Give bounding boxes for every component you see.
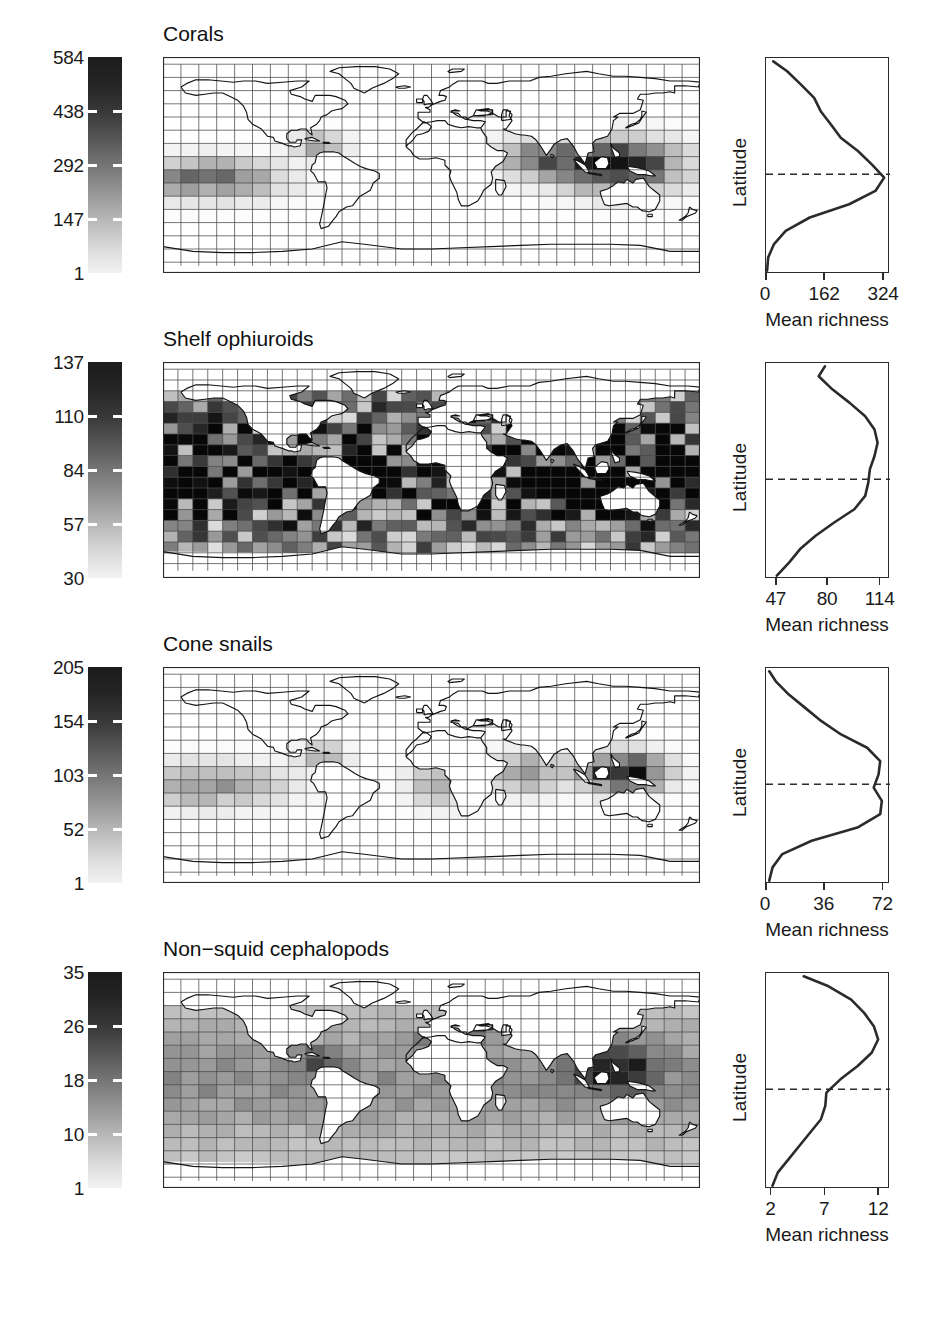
- x-tick-mark: [826, 578, 828, 585]
- x-tick-mark: [879, 578, 881, 585]
- x-tick-label: 162: [798, 283, 850, 305]
- x-axis-ticks: [765, 1188, 889, 1195]
- x-tick-mark: [770, 1188, 772, 1195]
- x-tick-mark: [823, 883, 825, 890]
- x-tick-label: 324: [857, 283, 909, 305]
- latitude-profile-plot-non-squid-cephalopods: Latitude2712Mean richness: [0, 915, 938, 1220]
- x-tick-mark: [765, 273, 767, 280]
- x-tick-labels: 03672: [765, 893, 889, 915]
- x-tick-mark: [775, 578, 777, 585]
- x-tick-label: 0: [739, 893, 791, 915]
- panel-non-squid-cephalopods: 352618101Non−squid cephalopodsLatitude27…: [0, 915, 938, 1220]
- x-axis-ticks: [765, 273, 889, 280]
- plot-frame: [765, 972, 889, 1188]
- latitudinal-gradient-curve: [766, 668, 890, 884]
- latitudinal-gradient-curve: [766, 363, 890, 579]
- x-axis-ticks: [765, 578, 889, 585]
- x-axis-label: Mean richness: [727, 1224, 927, 1246]
- x-tick-mark: [882, 883, 884, 890]
- x-tick-label: 2: [744, 1198, 796, 1220]
- x-tick-label: 114: [854, 588, 906, 610]
- y-axis-label: Latitude: [729, 443, 751, 512]
- panel-cone-snails: 205154103521Cone snailsLatitude03672Mean…: [0, 610, 938, 915]
- x-tick-mark: [765, 883, 767, 890]
- plot-frame: [765, 667, 889, 883]
- latitudinal-gradient-curve: [766, 58, 890, 274]
- latitudinal-gradient-curve: [766, 973, 890, 1189]
- x-tick-mark: [882, 273, 884, 280]
- x-axis-ticks: [765, 883, 889, 890]
- x-tick-label: 36: [798, 893, 850, 915]
- x-tick-mark: [877, 1188, 879, 1195]
- x-tick-mark: [823, 273, 825, 280]
- y-axis-label: Latitude: [729, 138, 751, 207]
- x-tick-label: 72: [856, 893, 908, 915]
- latitude-profile-plot-cone-snails: Latitude03672Mean richness: [0, 610, 938, 915]
- plot-frame: [765, 57, 889, 273]
- y-axis-label: Latitude: [729, 1053, 751, 1122]
- x-tick-label: 0: [739, 283, 791, 305]
- panel-corals: 5844382921471CoralsLatitude0162324Mean r…: [0, 0, 938, 305]
- x-tick-labels: 0162324: [765, 283, 889, 305]
- x-tick-labels: 4780114: [765, 588, 889, 610]
- x-tick-label: 12: [852, 1198, 904, 1220]
- panel-shelf-ophiuroids: 137110845730Shelf ophiuroidsLatitude4780…: [0, 305, 938, 610]
- x-tick-label: 80: [801, 588, 853, 610]
- latitude-profile-plot-shelf-ophiuroids: Latitude4780114Mean richness: [0, 305, 938, 610]
- plot-frame: [765, 362, 889, 578]
- x-tick-mark: [824, 1188, 826, 1195]
- latitude-profile-plot-corals: Latitude0162324Mean richness: [0, 0, 938, 305]
- x-tick-labels: 2712: [765, 1198, 889, 1220]
- x-tick-label: 47: [750, 588, 802, 610]
- x-tick-label: 7: [798, 1198, 850, 1220]
- y-axis-label: Latitude: [729, 748, 751, 817]
- species-richness-figure: 5844382921471CoralsLatitude0162324Mean r…: [0, 0, 938, 1329]
